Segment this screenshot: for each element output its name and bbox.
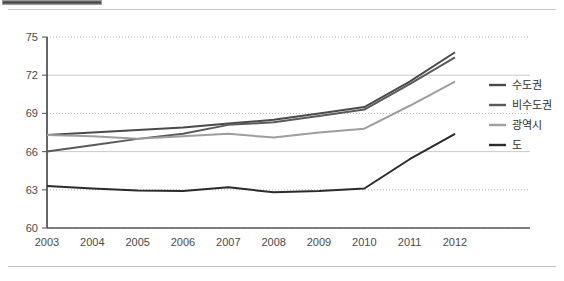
x-tick-label: 2005 — [125, 236, 149, 248]
x-tick-label: 2010 — [352, 236, 376, 248]
x-tick-label: 2004 — [80, 236, 104, 248]
legend-label: 도 — [512, 139, 522, 151]
x-tick-label: 2003 — [35, 236, 59, 248]
x-tick-label: 2011 — [398, 236, 422, 248]
y-tick-label: 66 — [26, 146, 38, 158]
line-chart: 606366697275 200320042005200620072008200… — [0, 12, 564, 262]
chart-page: 606366697275 200320042005200620072008200… — [0, 0, 564, 281]
legend-label: 수도권 — [512, 79, 542, 91]
y-tick-label: 75 — [26, 31, 38, 43]
x-tick-label: 2006 — [171, 236, 195, 248]
x-tick-label: 2007 — [216, 236, 240, 248]
y-tick-label: 72 — [26, 69, 38, 81]
x-tick-label: 2008 — [261, 236, 285, 248]
y-tick-label: 69 — [26, 107, 38, 119]
legend-label: 광역시 — [512, 119, 542, 131]
series-group — [47, 52, 455, 192]
y-axis-group: 606366697275 — [26, 31, 47, 234]
cropped-header-bar — [2, 0, 102, 5]
y-tick-label: 60 — [26, 222, 38, 234]
legend-label: 비수도권 — [512, 99, 552, 111]
top-divider — [8, 9, 556, 10]
y-tick-label: 63 — [26, 184, 38, 196]
x-axis-group: 2003200420052006200720082009201020112012 — [35, 228, 530, 248]
x-tick-label: 2012 — [443, 236, 467, 248]
bottom-divider — [8, 266, 556, 267]
x-tick-label: 2009 — [307, 236, 331, 248]
legend-group: 수도권비수도권광역시도 — [489, 79, 552, 151]
gridlines-group — [47, 37, 530, 228]
chart-svg: 606366697275 200320042005200620072008200… — [0, 12, 564, 262]
